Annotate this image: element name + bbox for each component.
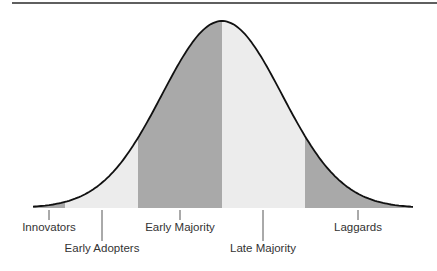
label-early-adopters: Early Adopters bbox=[65, 242, 140, 254]
segment-innovators bbox=[33, 0, 65, 208]
label-laggards: Laggards bbox=[334, 221, 382, 233]
diffusion-curve-diagram: InnovatorsEarly AdoptersEarly MajorityLa… bbox=[0, 0, 437, 271]
segment-late-majority bbox=[222, 0, 305, 208]
label-early-majority: Early Majority bbox=[145, 221, 215, 233]
label-late-majority: Late Majority bbox=[230, 242, 296, 254]
category-labels: InnovatorsEarly AdoptersEarly MajorityLa… bbox=[22, 210, 382, 254]
curve-segments bbox=[33, 0, 413, 208]
segment-laggards bbox=[305, 0, 413, 208]
label-innovators: Innovators bbox=[22, 221, 76, 233]
segment-early-adopters bbox=[65, 0, 138, 208]
segment-early-majority bbox=[138, 0, 222, 208]
